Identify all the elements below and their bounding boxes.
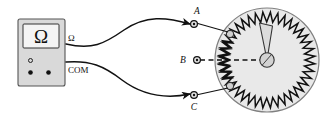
terminal-c[interactable]	[191, 92, 198, 99]
meter-display-omega-symbol: Ω	[34, 26, 48, 47]
terminal-label-c: C	[191, 102, 198, 112]
rheostat-assembly[interactable]	[196, 8, 319, 112]
ohmmeter-device[interactable]: Ω	[18, 19, 65, 86]
jack-ohm-icon[interactable]	[28, 70, 33, 75]
jack-label-ohm: Ω	[68, 33, 75, 43]
circuit-diagram: Ω Ω COM A B	[0, 0, 335, 121]
lead-a-to-stud	[196, 23, 228, 32]
terminal-a[interactable]	[191, 21, 198, 28]
figure-root: Ω Ω COM A B	[0, 0, 335, 121]
terminal-c-dot	[193, 94, 195, 96]
wire-ohm-to-A	[66, 19, 190, 47]
jack-label-com: COM	[68, 65, 89, 75]
jack-com-icon[interactable]	[46, 70, 51, 75]
lead-c-to-stud	[196, 88, 228, 95]
terminal-a-dot	[193, 23, 195, 25]
terminal-label-b: B	[180, 55, 186, 65]
terminal-b[interactable]	[194, 57, 201, 64]
terminal-b-dot	[196, 59, 198, 61]
terminal-label-a: A	[193, 6, 200, 16]
